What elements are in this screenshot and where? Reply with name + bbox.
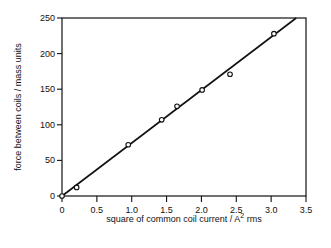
y-axis-ticks: 050100150200250 xyxy=(40,13,62,201)
data-point xyxy=(60,194,65,199)
data-point xyxy=(126,142,131,147)
x-axis-label: square of common coil current / A2 rms xyxy=(106,212,262,224)
x-tick-label: 0 xyxy=(59,205,64,215)
data-point xyxy=(175,104,180,109)
chart: 050100150200250 00.51.01.52.02.53.03.5 s… xyxy=(0,0,331,248)
y-tick-label: 50 xyxy=(45,155,55,165)
y-tick-label: 0 xyxy=(50,191,55,201)
x-tick-label: 3.0 xyxy=(265,205,278,215)
plot-frame xyxy=(62,18,306,196)
y-tick-label: 100 xyxy=(40,120,55,130)
data-point xyxy=(228,72,233,77)
data-point xyxy=(200,88,205,93)
y-tick-label: 200 xyxy=(40,49,55,59)
y-tick-label: 150 xyxy=(40,84,55,94)
x-tick-label: 0.5 xyxy=(91,205,104,215)
data-point xyxy=(272,31,277,36)
data-point xyxy=(74,185,79,190)
x-tick-label: 3.5 xyxy=(300,205,313,215)
y-tick-label: 250 xyxy=(40,13,55,23)
x-axis-ticks: 00.51.01.52.02.53.03.5 xyxy=(59,196,312,215)
y-axis-label: force between coils / mass units xyxy=(13,43,23,171)
data-point xyxy=(159,118,164,123)
